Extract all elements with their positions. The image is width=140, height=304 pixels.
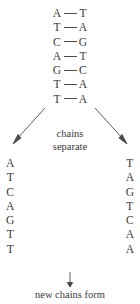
strand-base: A	[126, 170, 134, 184]
base-left: G	[52, 63, 63, 77]
chains-separate-line2: separate	[0, 141, 140, 154]
base-left: T	[52, 20, 63, 34]
strand-base: G	[126, 185, 134, 199]
base-right: C	[78, 63, 89, 77]
base-right: T	[78, 49, 89, 63]
base-left: A	[52, 49, 63, 63]
dna-duplex-ladder: A T T A C G A T G C T A	[0, 6, 140, 106]
base-right: G	[78, 35, 89, 49]
hydrogen-bond-icon	[64, 13, 77, 14]
separated-strands: A T C A G T T T A G T C A A	[0, 156, 140, 260]
strand-base: G	[6, 213, 14, 227]
strand-base: T	[7, 170, 14, 184]
strand-base: A	[6, 156, 14, 170]
down-arrow-head	[67, 283, 72, 288]
hydrogen-bond-icon	[64, 70, 77, 71]
strand-base: T	[126, 156, 133, 170]
chains-separate-line1: chains	[0, 128, 140, 141]
base-right: A	[78, 77, 89, 91]
base-left: T	[52, 77, 63, 91]
base-left: C	[52, 35, 63, 49]
strand-base: T	[7, 242, 14, 256]
base-right: T	[78, 6, 89, 20]
right-strand: T A G T C A A	[126, 156, 134, 256]
base-pair-row: A T	[52, 49, 89, 63]
strand-base: A	[6, 199, 14, 213]
strand-base: C	[6, 185, 14, 199]
hydrogen-bond-icon	[64, 27, 77, 28]
left-strand: A T C A G T T	[6, 156, 14, 256]
strand-base: A	[126, 242, 134, 256]
base-pair-row: A T	[52, 6, 89, 20]
strand-base: T	[126, 199, 133, 213]
base-pair-row: T A	[52, 92, 89, 106]
hydrogen-bond-icon	[64, 56, 77, 57]
new-chains-form-label: new chains form	[0, 288, 140, 301]
base-pair-row: G C	[52, 63, 89, 77]
chains-separate-label: chains separate	[0, 128, 140, 153]
base-right: A	[78, 20, 89, 34]
hydrogen-bond-icon	[64, 98, 77, 99]
dna-replication-diagram: A T T A C G A T G C T A	[0, 0, 140, 304]
hydrogen-bond-icon	[64, 84, 77, 85]
hydrogen-bond-icon	[64, 41, 77, 42]
formation-arrow	[0, 272, 140, 288]
strand-base: A	[126, 227, 134, 241]
base-pair-row: T A	[52, 20, 89, 34]
base-left: A	[52, 6, 63, 20]
base-left: T	[52, 92, 63, 106]
base-pair-row: C G	[52, 35, 89, 49]
base-pair-row: T A	[52, 77, 89, 91]
strand-base: T	[7, 227, 14, 241]
base-right: A	[78, 92, 89, 106]
strand-base: C	[126, 213, 134, 227]
